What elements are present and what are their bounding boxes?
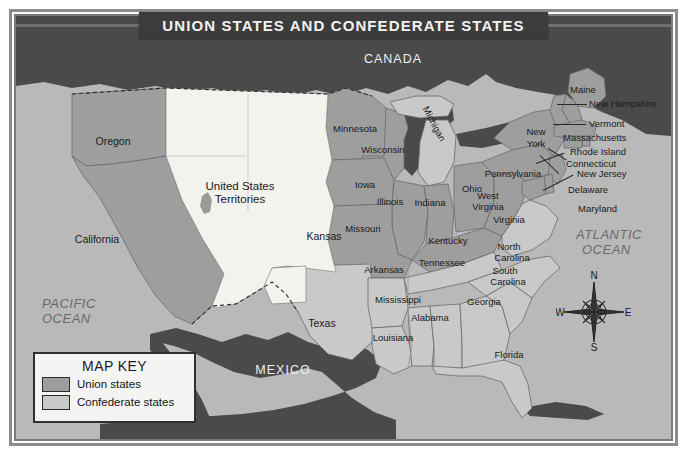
map-key-swatch-union bbox=[42, 377, 70, 392]
map-key-swatch-confederate bbox=[42, 395, 70, 410]
compass-label-south: S bbox=[591, 342, 598, 352]
state-mississippi bbox=[408, 306, 434, 366]
compass-label-north: N bbox=[590, 270, 597, 281]
state-indiana bbox=[424, 184, 454, 244]
banner-rule-right bbox=[548, 24, 671, 27]
map-page: Union States and Confederate States CANA… bbox=[0, 0, 687, 455]
state-rhode-island bbox=[582, 136, 590, 146]
compass-label-west: W bbox=[556, 307, 565, 318]
map-key-row-confederate: Confederate states bbox=[42, 395, 194, 410]
compass-rose-svg: N E S W bbox=[556, 266, 632, 352]
banner-rule-left bbox=[16, 24, 140, 27]
map-key-heading: MAP KEY bbox=[35, 358, 194, 377]
state-connecticut bbox=[564, 136, 582, 148]
map-key-label-union: Union states bbox=[77, 379, 141, 391]
compass-label-east: E bbox=[625, 307, 632, 318]
map-key-row-union: Union states bbox=[42, 377, 194, 392]
state-oregon bbox=[72, 88, 166, 166]
leader-line-new-hampshire bbox=[557, 104, 587, 105]
map-title-banner: Union States and Confederate States bbox=[139, 12, 548, 38]
compass-rose: N E S W bbox=[556, 266, 632, 352]
indian-territory bbox=[264, 266, 306, 304]
state-alabama bbox=[430, 304, 462, 368]
state-arkansas bbox=[368, 278, 408, 328]
state-iowa bbox=[326, 158, 394, 206]
map-key: MAP KEY Union states Confederate states bbox=[33, 352, 196, 423]
leader-line-vermont bbox=[553, 124, 586, 125]
page-title: Union States and Confederate States bbox=[162, 17, 524, 34]
map-key-label-confederate: Confederate states bbox=[77, 397, 174, 409]
